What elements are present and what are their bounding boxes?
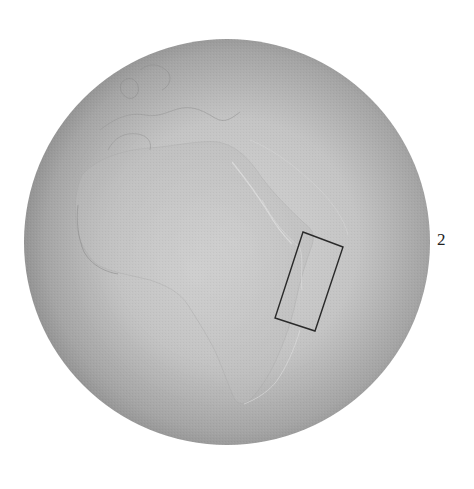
- globe-map: [0, 0, 474, 489]
- continents: [0, 0, 474, 489]
- globe-map-figure: 2: [0, 0, 474, 489]
- region-label: 2: [437, 231, 446, 248]
